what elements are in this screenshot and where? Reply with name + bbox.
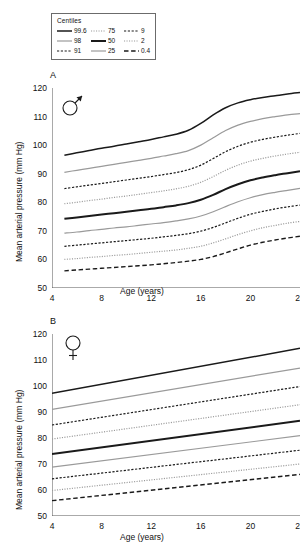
x-tick-label: 4 bbox=[44, 522, 60, 531]
centile-line-99-6 bbox=[52, 348, 300, 393]
centile-line-98 bbox=[64, 114, 300, 173]
female-symbol bbox=[62, 334, 84, 368]
panel-b: B Mean arterial pressure (mm Hg) Age (ye… bbox=[0, 300, 300, 553]
y-tick-label: 110 bbox=[27, 356, 47, 365]
y-tick-label: 120 bbox=[27, 84, 47, 93]
y-tick-label: 120 bbox=[27, 330, 47, 339]
panel-a-letter: A bbox=[50, 70, 56, 80]
y-tick-label: 60 bbox=[27, 486, 47, 495]
y-tick-label: 60 bbox=[27, 255, 47, 264]
y-tick-label: 50 bbox=[27, 284, 47, 293]
y-tick-label: 70 bbox=[27, 460, 47, 469]
y-tick-label: 110 bbox=[27, 113, 47, 122]
panel-a: A Mean arterial pressure (mm Hg) Age (ye… bbox=[0, 0, 300, 300]
centile-line-2 bbox=[64, 221, 300, 259]
y-tick-label: 90 bbox=[27, 408, 47, 417]
centile-line-0-4 bbox=[64, 236, 300, 271]
centile-line-91 bbox=[52, 387, 300, 425]
centile-line-9 bbox=[52, 450, 300, 479]
panel-a-y-axis-label: Mean arterial pressure (mm Hg) bbox=[14, 142, 24, 262]
centile-line-91 bbox=[64, 133, 300, 188]
centile-line-50 bbox=[64, 171, 300, 219]
centile-line-9 bbox=[64, 205, 300, 246]
x-tick-label: 12 bbox=[143, 522, 159, 531]
panel-b-letter: B bbox=[50, 316, 56, 326]
panel-b-x-axis-label: Age (years) bbox=[120, 532, 164, 542]
centile-line-98 bbox=[52, 368, 300, 409]
centile-line-99-6 bbox=[64, 93, 300, 156]
centile-line-25 bbox=[52, 436, 300, 467]
x-tick-label: 20 bbox=[242, 522, 258, 531]
centile-line-75 bbox=[52, 405, 300, 439]
panel-a-plot bbox=[52, 88, 300, 288]
panel-b-y-axis-label: Mean arterial pressure (mm Hg) bbox=[14, 390, 24, 510]
y-tick-label: 80 bbox=[27, 198, 47, 207]
centile-line-2 bbox=[52, 464, 300, 491]
y-tick-label: 100 bbox=[27, 382, 47, 391]
y-tick-label: 90 bbox=[27, 170, 47, 179]
x-tick-label: 24 bbox=[292, 522, 300, 531]
y-tick-label: 100 bbox=[27, 141, 47, 150]
male-symbol bbox=[60, 92, 86, 122]
centile-line-50 bbox=[52, 421, 300, 454]
y-tick-label: 80 bbox=[27, 434, 47, 443]
panel-b-plot bbox=[52, 334, 300, 516]
centile-line-25 bbox=[64, 188, 300, 233]
x-tick-label: 16 bbox=[193, 522, 209, 531]
x-tick-label: 8 bbox=[94, 522, 110, 531]
centile-line-0-4 bbox=[52, 474, 300, 500]
y-tick-label: 70 bbox=[27, 227, 47, 236]
y-tick-label: 50 bbox=[27, 512, 47, 521]
